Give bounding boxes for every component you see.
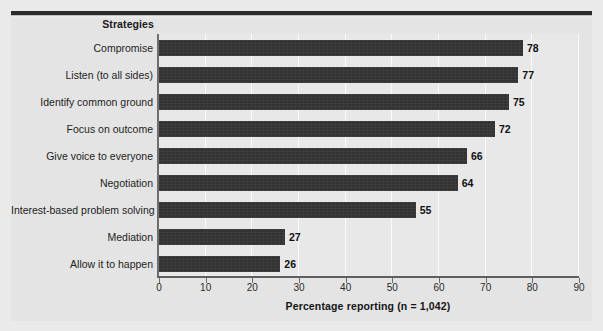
bar xyxy=(159,202,416,218)
category-label: Allow it to happen xyxy=(11,253,153,275)
bar xyxy=(159,121,495,137)
bar-value-label: 55 xyxy=(420,201,432,219)
category-label: Interest-based problem solving xyxy=(11,199,153,221)
bar-value-label: 27 xyxy=(289,228,301,246)
x-tick-label-90: 90 xyxy=(559,282,599,293)
bar-row: Compromise78 xyxy=(11,37,592,59)
category-label: Focus on outcome xyxy=(11,118,153,140)
x-tick-label-20: 20 xyxy=(232,282,272,293)
bar xyxy=(159,40,523,56)
chart-figure: Strategies Compromise78Listen (to all si… xyxy=(0,0,603,331)
bar-row: Allow it to happen26 xyxy=(11,253,592,275)
bar-row: Interest-based problem solving55 xyxy=(11,199,592,221)
bar-value-label: 75 xyxy=(513,93,525,111)
bar-row: Listen (to all sides)77 xyxy=(11,64,592,86)
x-axis-title: Percentage reporting (n = 1,042) xyxy=(158,300,578,312)
bar xyxy=(159,256,280,272)
x-tick-label-60: 60 xyxy=(419,282,459,293)
category-label: Mediation xyxy=(11,226,153,248)
bar-row: Identify common ground75 xyxy=(11,91,592,113)
chart-panel: Strategies Compromise78Listen (to all si… xyxy=(11,18,592,321)
bar xyxy=(159,148,467,164)
category-label: Compromise xyxy=(11,37,153,59)
x-axis-line xyxy=(157,276,579,278)
x-tick-label-40: 40 xyxy=(326,282,366,293)
figure-top-rule xyxy=(11,11,592,15)
bar xyxy=(159,175,458,191)
x-tick-label-10: 10 xyxy=(186,282,226,293)
figure-caption-fragment xyxy=(11,0,592,9)
bar-chart: Strategies Compromise78Listen (to all si… xyxy=(11,18,592,321)
x-tick-label-50: 50 xyxy=(372,282,412,293)
bar-value-label: 72 xyxy=(499,120,511,138)
bar-value-label: 64 xyxy=(462,174,474,192)
x-tick-label-80: 80 xyxy=(512,282,552,293)
category-label: Negotiation xyxy=(11,172,153,194)
bar xyxy=(159,94,509,110)
bar-row: Focus on outcome72 xyxy=(11,118,592,140)
x-tick-label-30: 30 xyxy=(279,282,319,293)
category-axis-title: Strategies xyxy=(11,18,158,30)
bar-row: Give voice to everyone66 xyxy=(11,145,592,167)
bar-row: Mediation27 xyxy=(11,226,592,248)
bar xyxy=(159,67,518,83)
x-tick-label-0: 0 xyxy=(139,282,179,293)
x-tick-label-70: 70 xyxy=(466,282,506,293)
bar-value-label: 77 xyxy=(522,66,534,84)
bar-value-label: 78 xyxy=(527,39,539,57)
category-label: Identify common ground xyxy=(11,91,153,113)
bar-value-label: 66 xyxy=(471,147,483,165)
bar-row: Negotiation64 xyxy=(11,172,592,194)
bar xyxy=(159,229,285,245)
category-label: Give voice to everyone xyxy=(11,145,153,167)
bar-value-label: 26 xyxy=(284,255,296,273)
category-label: Listen (to all sides) xyxy=(11,64,153,86)
